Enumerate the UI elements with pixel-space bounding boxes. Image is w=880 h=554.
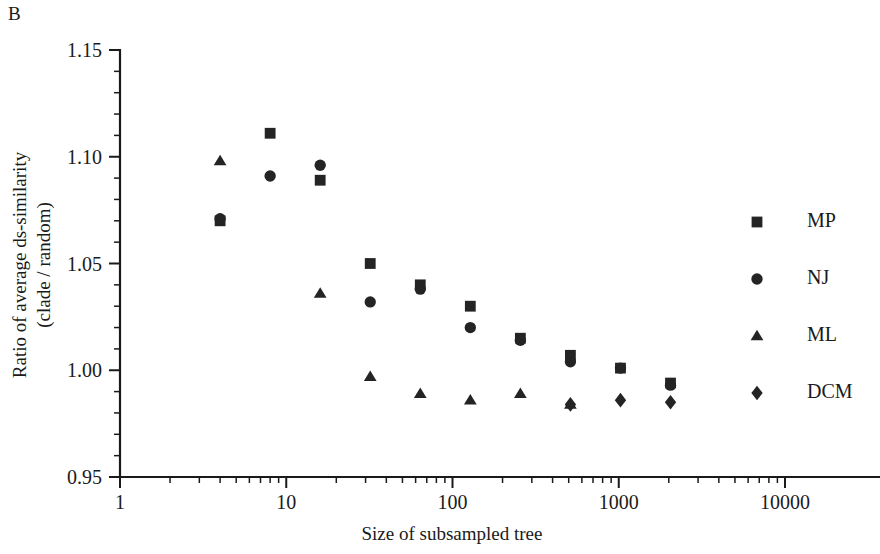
data-point-square [365, 258, 376, 269]
legend-marker-square [752, 217, 763, 228]
data-point-circle [214, 213, 225, 224]
series-mp [215, 128, 676, 389]
legend-item-ml: ML [751, 323, 837, 345]
legend: MPNJMLDCM [751, 209, 853, 402]
x-tick-label: 1000 [599, 491, 639, 513]
series-nj [214, 160, 676, 391]
data-point-triangle [464, 394, 477, 404]
figure-container: B 0.951.001.051.101.15 110100100010000 M… [0, 0, 880, 554]
series-dcm [565, 393, 676, 412]
y-axis-title-line1: Ratio of average ds-similarity [9, 151, 30, 378]
scatter-plot: 0.951.001.051.101.15 110100100010000 MPN… [0, 0, 880, 554]
x-tick-label: 10 [276, 491, 296, 513]
series-ml [214, 155, 577, 409]
x-tick-label: 100 [438, 491, 468, 513]
data-point-square [315, 175, 326, 186]
data-markers [214, 128, 676, 412]
x-axis-title: Size of subsampled tree [362, 523, 543, 544]
data-point-diamond [665, 395, 676, 410]
data-point-triangle [514, 388, 527, 398]
y-tick-label: 1.10 [67, 146, 102, 168]
data-point-circle [315, 160, 326, 171]
data-point-square [265, 128, 276, 139]
x-axis: 110100100010000 [115, 477, 880, 513]
data-point-circle [515, 335, 526, 346]
y-axis: 0.951.001.051.101.15 [67, 39, 120, 488]
data-point-diamond [565, 397, 576, 412]
data-point-circle [565, 356, 576, 367]
legend-label: DCM [807, 380, 853, 402]
legend-item-dcm: DCM [751, 380, 852, 402]
legend-marker-circle [751, 273, 762, 284]
y-tick-label: 1.05 [67, 253, 102, 275]
data-point-circle [615, 362, 626, 373]
x-tick-label: 1 [115, 491, 125, 513]
data-point-circle [365, 296, 376, 307]
legend-label: MP [807, 209, 836, 231]
x-tick-label: 10000 [760, 491, 810, 513]
legend-item-nj: NJ [751, 266, 829, 288]
data-point-circle [415, 283, 426, 294]
data-point-circle [264, 170, 275, 181]
data-point-square [465, 301, 476, 312]
data-point-triangle [314, 287, 327, 297]
data-point-circle [465, 322, 476, 333]
y-axis-title-line2: (clade / random) [33, 202, 55, 328]
legend-label: NJ [807, 266, 829, 288]
y-tick-label: 1.15 [67, 39, 102, 61]
data-point-circle [665, 380, 676, 391]
data-point-diamond [615, 393, 626, 408]
legend-marker-diamond [751, 386, 762, 401]
legend-label: ML [807, 323, 837, 345]
legend-item-mp: MP [752, 209, 836, 231]
data-point-triangle [364, 370, 377, 380]
y-tick-label: 0.95 [67, 466, 102, 488]
legend-marker-triangle [751, 330, 764, 340]
y-tick-label: 1.00 [67, 359, 102, 381]
data-point-triangle [214, 155, 227, 165]
data-point-triangle [414, 388, 427, 398]
